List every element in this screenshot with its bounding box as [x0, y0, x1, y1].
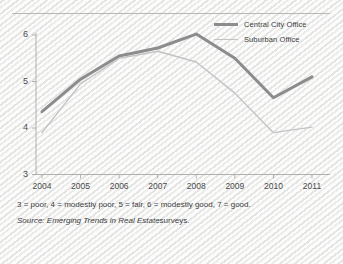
x-tick-label: 2011 [295, 181, 329, 191]
x-tick-label: 2006 [102, 181, 136, 191]
y-tick-label: 5 [14, 76, 28, 86]
scale-note: 3 = poor, 4 = modestly poor, 5 = fair, 6… [17, 200, 327, 211]
x-tick-label: 2009 [218, 181, 252, 191]
y-tick-label: 3 [14, 169, 28, 179]
chart-figure-inner: Central City Office Suburban Office 3456… [0, 0, 343, 264]
y-tick-label: 4 [14, 122, 28, 132]
source-suffix: surveys. [160, 216, 190, 225]
y-tick-label: 6 [14, 29, 28, 39]
source-prefix: Source: [17, 216, 45, 225]
x-tick-label: 2007 [141, 181, 175, 191]
chart-figure: Central City Office Suburban Office 3456… [0, 0, 343, 264]
plot-area: 3456 20042005200620072008200920102011 [0, 0, 343, 200]
chart-canvas [0, 0, 343, 200]
source-note: Source: Emerging Trends in Real Estatesu… [17, 216, 327, 227]
chart-footnotes: 3 = poor, 4 = modestly poor, 5 = fair, 6… [17, 200, 327, 232]
x-tick-label: 2010 [256, 181, 290, 191]
x-tick-label: 2008 [179, 181, 213, 191]
source-title: Emerging Trends in Real Estate [47, 216, 160, 225]
x-tick-label: 2004 [25, 181, 59, 191]
x-tick-label: 2005 [64, 181, 98, 191]
